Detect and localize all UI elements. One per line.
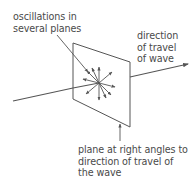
- incoming-ray: [13, 88, 73, 101]
- direction-label-line2: of travel: [137, 42, 178, 54]
- direction-label-line1: direction: [137, 30, 178, 42]
- plane-label-line3: the wave: [78, 167, 188, 179]
- oscillations-label-line1: oscillations in: [13, 11, 81, 23]
- direction-label-line3: of wave: [137, 53, 178, 65]
- oscillations-label-line2: several planes: [13, 23, 81, 35]
- plane-label-line1: plane at right angles to: [78, 144, 188, 156]
- direction-label: direction of travel of wave: [137, 30, 178, 65]
- plane-label: plane at right angles to direction of tr…: [78, 144, 188, 179]
- outgoing-ray: [130, 64, 188, 77]
- plane-label-line2: direction of travel of: [78, 156, 188, 168]
- oscillations-label: oscillations in several planes: [13, 11, 81, 34]
